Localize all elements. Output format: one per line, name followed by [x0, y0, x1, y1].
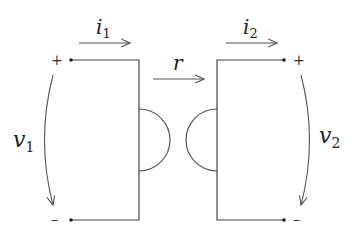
- left-port: [69, 58, 170, 222]
- left-port-wire: [71, 60, 139, 220]
- r-label: r: [173, 51, 184, 75]
- v2-arrow: [301, 75, 310, 205]
- right-semicircle: [186, 109, 217, 171]
- v2-label: v2: [319, 123, 340, 151]
- left-plus-sign: +: [51, 52, 63, 68]
- gyrator-diagram: i1 i2 r v1 v2 + – + –: [0, 0, 359, 237]
- left-top-terminal: [69, 58, 73, 62]
- right-port: [186, 58, 286, 222]
- right-top-terminal: [282, 58, 286, 62]
- right-plus-sign: +: [293, 52, 305, 68]
- left-minus-sign: –: [51, 211, 58, 227]
- i1-label: i1: [96, 15, 111, 41]
- left-semicircle: [139, 109, 170, 171]
- left-bottom-terminal: [69, 218, 73, 222]
- i2-label: i2: [243, 15, 258, 41]
- right-bottom-terminal: [282, 218, 286, 222]
- right-port-wire: [217, 60, 284, 220]
- v1-arrow: [45, 75, 54, 205]
- right-minus-sign: –: [293, 211, 300, 227]
- v1-label: v1: [13, 127, 34, 155]
